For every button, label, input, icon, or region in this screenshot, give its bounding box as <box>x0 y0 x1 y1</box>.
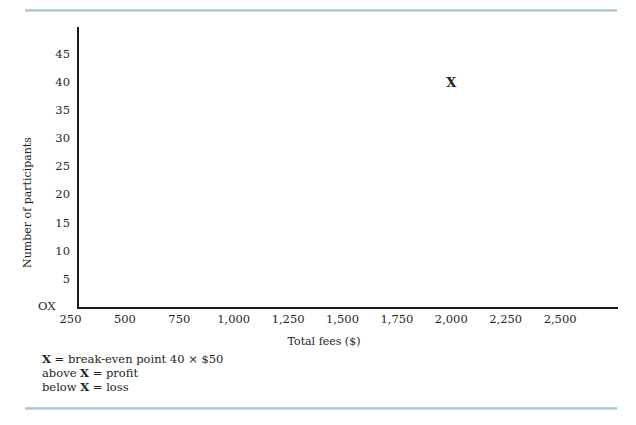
x-tick-label: 1,000 <box>204 313 264 326</box>
x-axis-title: Total fees ($) <box>0 335 636 348</box>
legend-line: above X = profit <box>42 366 223 380</box>
x-tick-label: 1,250 <box>258 313 318 326</box>
legend-symbol: X <box>42 352 51 366</box>
legend-symbol: X <box>80 366 89 380</box>
x-tick-label: 250 <box>41 313 101 326</box>
legend-line: X = break-even point 40 × $50 <box>42 352 223 366</box>
legend-line: below X = loss <box>42 380 223 394</box>
x-tick-label: 2,500 <box>530 313 590 326</box>
x-tick-label: 1,500 <box>313 313 373 326</box>
x-axis-title-text: Total fees ($) <box>288 335 361 348</box>
break-even-point-marker: X <box>446 75 456 88</box>
legend-symbol: X <box>80 380 89 394</box>
x-tick-label: 2,250 <box>476 313 536 326</box>
x-tick-label: 500 <box>95 313 155 326</box>
chart-legend: X = break-even point 40 × $50above X = p… <box>42 352 223 395</box>
x-tick-label: 1,750 <box>367 313 427 326</box>
x-tick-label: 750 <box>149 313 209 326</box>
x-tick-label: 2,000 <box>421 313 481 326</box>
break-even-chart: Number of participants 51015202530354045… <box>0 0 636 425</box>
